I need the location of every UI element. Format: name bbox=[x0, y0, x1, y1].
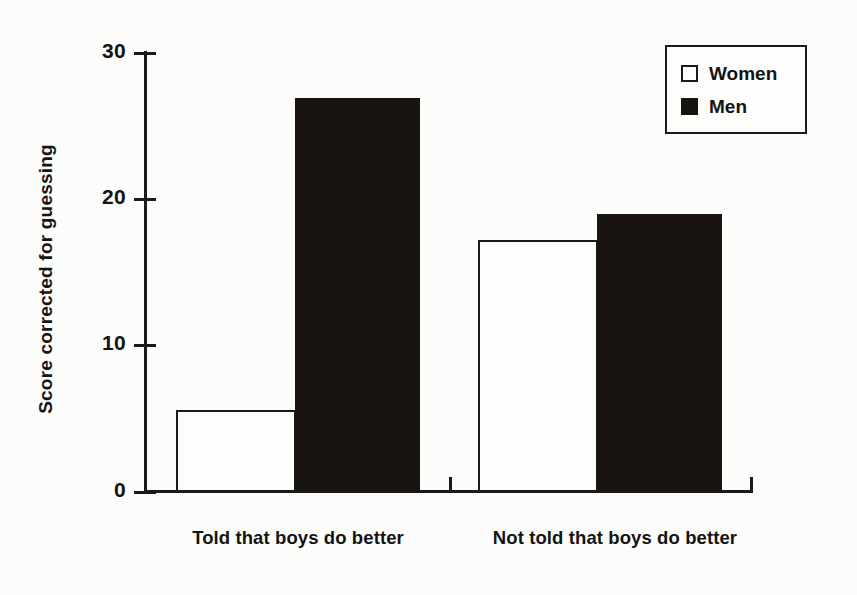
y-tick-20 bbox=[134, 198, 156, 201]
bar-women-not-told bbox=[478, 240, 598, 492]
x-axis-end-tick bbox=[750, 477, 753, 493]
y-tick-label-30: 30 bbox=[74, 39, 126, 63]
y-axis-line bbox=[144, 51, 147, 494]
legend-row-men: Men bbox=[681, 90, 805, 123]
plot-area: Score corrected for guessing 30 20 10 0 … bbox=[0, 0, 857, 595]
x-category-label-told: Told that boys do better bbox=[148, 527, 448, 549]
legend-label-men: Men bbox=[709, 97, 747, 116]
y-tick-0 bbox=[134, 491, 156, 494]
y-tick-label-0: 0 bbox=[74, 478, 126, 502]
y-tick-label-10: 10 bbox=[74, 331, 126, 355]
bar-men-told bbox=[295, 98, 420, 492]
legend-box: Women Men bbox=[665, 45, 807, 134]
y-tick-10 bbox=[134, 344, 156, 347]
legend-swatch-women-icon bbox=[681, 65, 698, 82]
x-category-label-not-told: Not told that boys do better bbox=[456, 527, 774, 549]
x-axis-group-separator-tick bbox=[449, 477, 452, 493]
legend-label-women: Women bbox=[709, 64, 777, 83]
legend-swatch-men-icon bbox=[681, 98, 698, 115]
bar-men-not-told bbox=[597, 214, 722, 492]
y-tick-label-20: 20 bbox=[74, 185, 126, 209]
bar-chart-figure: Score corrected for guessing 30 20 10 0 … bbox=[0, 0, 857, 595]
y-axis-title: Score corrected for guessing bbox=[35, 129, 57, 429]
bar-women-told bbox=[176, 410, 296, 492]
legend-row-women: Women bbox=[681, 57, 805, 90]
y-tick-30 bbox=[134, 52, 156, 55]
